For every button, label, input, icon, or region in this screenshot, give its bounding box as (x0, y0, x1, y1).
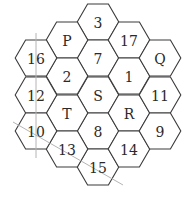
hex-label: 14 (120, 142, 138, 158)
hex-label: 8 (94, 124, 103, 140)
hex-label: 16 (27, 51, 45, 67)
hex-label: 1 (125, 69, 134, 85)
hex-label: R (124, 106, 135, 122)
hex-label: 13 (58, 142, 76, 158)
hex-label: 2 (63, 69, 72, 85)
hex-label: S (93, 88, 103, 104)
hex-label: 11 (151, 88, 169, 104)
hex-label: Q (154, 51, 165, 67)
hex-label: 7 (94, 51, 103, 67)
hex-label: T (62, 106, 72, 122)
hex-label: 15 (89, 160, 107, 176)
hex-label: 17 (120, 33, 138, 49)
hex-label: P (62, 33, 71, 49)
hex-label: 3 (94, 15, 103, 31)
hex-label: 9 (156, 124, 165, 140)
hex-grid-diagram: 37S815P2T13171R14161210Q119 (0, 0, 188, 197)
hex-label: 10 (27, 124, 45, 140)
hex-label: 12 (27, 88, 45, 104)
